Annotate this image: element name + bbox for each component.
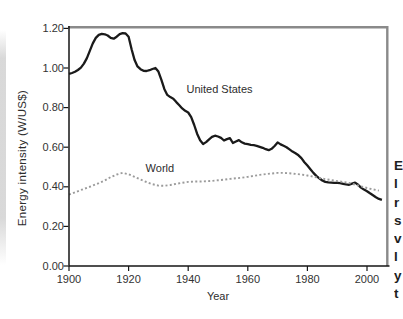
clipped-adjacent-column-text: Elrsvlyt xyxy=(394,157,403,312)
clipped-text-fragment: y xyxy=(394,267,403,285)
y-tick-label: 0.80 xyxy=(28,101,64,114)
plot-frame xyxy=(68,27,387,266)
x-tick-label: 1940 xyxy=(171,273,205,286)
clipped-text-fragment: s xyxy=(394,212,403,230)
y-tick-label: 1.20 xyxy=(28,22,64,35)
clipped-text-fragment: v xyxy=(394,230,403,248)
x-tick-label: 1920 xyxy=(112,273,146,286)
series-line-united-states xyxy=(69,33,382,200)
y-tick-label: 0.60 xyxy=(28,141,64,154)
clipped-text-fragment: E xyxy=(394,157,403,175)
y-tick-label: 0.00 xyxy=(28,260,64,273)
clipped-text-fragment: l xyxy=(394,175,403,193)
clipped-text-fragment: r xyxy=(394,194,403,212)
series-label-united-states: United States xyxy=(186,83,252,95)
clipped-text-fragment: t xyxy=(394,285,403,303)
x-tick-label: 1980 xyxy=(290,273,324,286)
y-tick-label: 1.00 xyxy=(28,62,64,75)
x-tick-label: 1960 xyxy=(231,273,265,286)
series-label-world: World xyxy=(146,162,175,174)
y-tick-label: 0.40 xyxy=(28,180,64,193)
x-axis-title: Year xyxy=(207,290,229,302)
x-tick-label: 1900 xyxy=(52,273,86,286)
axes xyxy=(68,26,389,267)
y-axis-title: Energy intensity (W/US$) xyxy=(16,90,28,226)
y-tick-label: 0.20 xyxy=(28,220,64,233)
scanned-chart-page: Energy intensity (W/US$) Year United Sta… xyxy=(0,0,403,319)
x-tick-label: 2000 xyxy=(350,273,384,286)
clipped-text-fragment: l xyxy=(394,248,403,266)
